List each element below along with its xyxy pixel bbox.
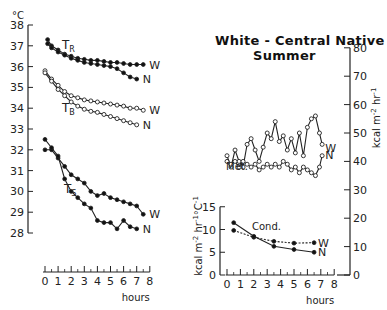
y-axis-unit-label: °C: [12, 10, 24, 21]
subscript: B: [69, 108, 75, 117]
right-chart: 01020304050607080kcal m-2 hr-1051015kcal…: [192, 42, 382, 306]
series-ts-n-point: [115, 227, 119, 231]
series-tr-w-point: [135, 63, 139, 67]
series-met-w-point: [301, 154, 305, 158]
series-cond-n-point: [252, 234, 256, 238]
series-ts-n-point: [50, 146, 54, 150]
series-tb-n-point: [122, 119, 126, 123]
series-met-w-point: [249, 137, 253, 141]
superscript: -1: [192, 196, 200, 203]
label-tr: TR: [61, 38, 75, 54]
x-tick-label: 8: [331, 278, 338, 291]
right-y-tick-label: 0: [353, 269, 360, 282]
subscript: R: [69, 45, 75, 54]
right-y-tick-label: 40: [353, 155, 367, 168]
series-tb-w-point: [135, 106, 139, 110]
series-tr-n-point: [76, 58, 80, 62]
label-cond: Cond.: [252, 221, 281, 232]
series-met-w-point: [320, 142, 324, 146]
x-tick-label: 3: [264, 278, 271, 291]
series-met-w-point: [309, 117, 313, 121]
series-tb-w-point: [56, 83, 60, 87]
series-tr-n-point: [109, 65, 113, 69]
series-met-n-point: [277, 165, 281, 169]
series-tb-w-point: [95, 100, 99, 104]
right-y-tick-label: 70: [353, 70, 367, 83]
series-tb-n-point: [76, 104, 80, 108]
series-ts-w-point: [43, 148, 47, 152]
series-ts-n-point: [122, 219, 126, 223]
x-tick-label: 2: [68, 275, 75, 288]
x-tick-label: 1: [237, 278, 244, 291]
series-ts-w-point: [115, 198, 119, 202]
x-tick-label: 4: [277, 278, 284, 291]
left-y-tick-label: 15: [202, 201, 216, 214]
series-end-label: W: [149, 104, 160, 117]
series-cond-n-point: [232, 221, 236, 225]
x-tick-label: 6: [304, 278, 311, 291]
series-met-n-point: [320, 154, 324, 158]
y-tick-label: 30: [10, 185, 24, 198]
series-cond-w-point: [292, 241, 296, 245]
series-tr-n-point: [69, 56, 73, 60]
series-tr-n-point: [50, 46, 54, 50]
x-tick-label: 5: [291, 278, 298, 291]
series-ts-n-point: [128, 225, 132, 229]
series-tb-w-point: [128, 106, 132, 110]
series-met-w-point: [253, 148, 257, 152]
series-ts-n-point: [43, 138, 47, 142]
right-y-tick-label: 10: [353, 241, 367, 254]
series-ts-w-point: [128, 202, 132, 206]
series-tr-n-point: [122, 71, 126, 75]
series-ts-w-point: [109, 196, 113, 200]
series-tb-n-point: [109, 115, 113, 119]
series-tb-n-point: [82, 107, 86, 111]
series-tb-n-point: [89, 109, 93, 113]
series-tb-n-point: [56, 87, 60, 91]
series-tb-n-point: [135, 123, 139, 127]
series-met-w-point: [305, 125, 309, 129]
series-ts-n-point: [63, 177, 67, 181]
series-ts-w-point: [63, 165, 67, 169]
series-tb-n-point: [102, 112, 106, 116]
series-tr-n-point: [115, 67, 119, 71]
series-met-w-point: [289, 137, 293, 141]
series-met-w-point: [245, 142, 249, 146]
series-ts-w-point: [69, 173, 73, 177]
series-tr-n-point: [46, 42, 50, 46]
series-met-n-point: [309, 171, 313, 175]
series-met-w-point: [273, 120, 277, 124]
series-end-label: N: [143, 223, 151, 236]
series-cond-w-point: [312, 241, 316, 245]
series-tr-n-point: [128, 75, 132, 79]
series-met-n-point: [305, 168, 309, 172]
series-tr-w-point: [102, 60, 106, 64]
series-tb-w-point: [89, 99, 93, 103]
figure-canvas: 2829303132333435363738°C012345678hoursWN…: [0, 0, 387, 310]
x-tick-label: 0: [224, 278, 231, 291]
series-ts-n-point: [96, 219, 100, 223]
series-cond-n-point: [272, 244, 276, 248]
right-y-tick-label: 80: [353, 42, 367, 55]
left-y-axis-label: kcal m-2 hr-1°C-1: [192, 196, 204, 276]
series-met-n-point: [317, 165, 321, 169]
unit: °C: [193, 203, 204, 215]
series-met-n-point: [265, 162, 269, 166]
series-ts-n-point: [102, 221, 106, 225]
right-y-axis-label: kcal m-2 hr-1: [370, 88, 382, 149]
y-tick-label: 31: [10, 165, 24, 178]
left-y-tick-label: 5: [209, 246, 216, 259]
series-tb-w-point: [122, 104, 126, 108]
x-tick-label: 1: [55, 275, 62, 288]
series-cond-n-point: [312, 250, 316, 254]
series-met-w-point: [233, 148, 237, 152]
series-tr-n-point: [102, 64, 106, 68]
series-tr-n-point: [89, 62, 93, 66]
series-tb-n-point: [63, 94, 67, 98]
series-tr-w-point: [46, 38, 50, 42]
series-tb-w-point: [102, 101, 106, 105]
subscript: S: [71, 189, 76, 198]
series-tr-w-point: [128, 63, 132, 67]
x-tick-label: 0: [42, 275, 49, 288]
series-tb-w-point: [63, 90, 67, 94]
